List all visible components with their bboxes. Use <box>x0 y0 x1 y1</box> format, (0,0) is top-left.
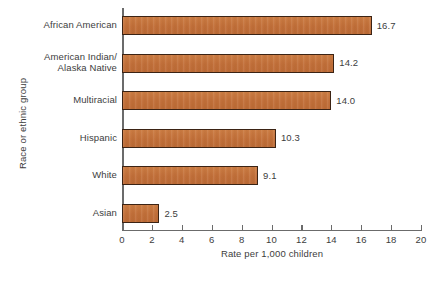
x-axis-tick <box>272 225 273 231</box>
x-axis-tick <box>391 225 392 231</box>
bar <box>122 54 334 73</box>
x-axis-tick-label: 0 <box>110 234 134 245</box>
x-axis-tick <box>242 225 243 231</box>
bar <box>122 91 331 110</box>
bar <box>122 16 372 35</box>
plot-area: 16.714.214.010.39.12.502468101214161820 <box>122 8 422 230</box>
x-axis-tick-label: 4 <box>170 234 194 245</box>
category-label-line: African American <box>18 19 117 31</box>
y-axis-line <box>122 8 124 230</box>
category-label: American Indian/Alaska Native <box>18 51 117 74</box>
bar-chart: Race or ethnic group African AmericanAme… <box>0 0 433 283</box>
x-axis-tick-label: 8 <box>230 234 254 245</box>
x-axis-tick <box>421 225 422 231</box>
bar-value-label: 10.3 <box>281 132 300 143</box>
category-label: African American <box>18 19 117 31</box>
category-label-line: White <box>18 169 117 181</box>
x-axis-tick <box>212 225 213 231</box>
x-axis-tick <box>152 225 153 231</box>
bar-value-label: 14.2 <box>339 57 358 68</box>
x-axis-tick <box>122 225 123 231</box>
x-axis-tick-label: 10 <box>260 234 284 245</box>
x-axis-tick-label: 14 <box>319 234 343 245</box>
category-label-line: American Indian/ <box>18 51 117 63</box>
category-label-line: Alaska Native <box>18 62 117 74</box>
x-axis-tick-label: 20 <box>409 234 433 245</box>
category-label-line: Asian <box>18 207 117 219</box>
bar-value-label: 16.7 <box>377 20 396 31</box>
category-label-column: African AmericanAmerican Indian/Alaska N… <box>18 8 117 230</box>
category-label-line: Hispanic <box>18 132 117 144</box>
bar-value-label: 9.1 <box>263 170 277 181</box>
bar <box>122 166 258 185</box>
bar-value-label: 14.0 <box>336 95 355 106</box>
x-axis-tick <box>301 225 302 231</box>
x-axis-tick-label: 16 <box>349 234 373 245</box>
x-axis-tick-label: 2 <box>140 234 164 245</box>
category-label-line: Multiracial <box>18 94 117 106</box>
x-axis-tick <box>182 225 183 231</box>
x-axis-tick <box>331 225 332 231</box>
x-axis-tick-label: 6 <box>200 234 224 245</box>
category-label: Asian <box>18 207 117 219</box>
x-axis-tick-label: 12 <box>289 234 313 245</box>
x-axis-tick <box>361 225 362 231</box>
category-label: Multiracial <box>18 94 117 106</box>
bar <box>122 129 276 148</box>
x-axis-title: Rate per 1,000 children <box>122 248 422 259</box>
category-label: Hispanic <box>18 132 117 144</box>
bar-value-label: 2.5 <box>164 208 178 219</box>
category-label: White <box>18 169 117 181</box>
x-axis-tick-label: 18 <box>379 234 403 245</box>
bar <box>122 204 159 223</box>
